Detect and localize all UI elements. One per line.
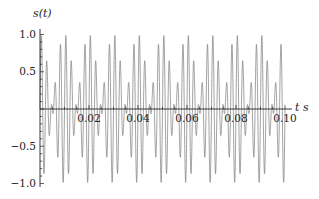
x-tick-label: 0.04 — [126, 112, 150, 124]
y-tick-label: −0.5 — [11, 140, 37, 152]
y-tick-label: −1.0 — [11, 177, 37, 189]
signal-plot: 0.020.040.060.080.101.00.5−0.5−1.0 s(t) … — [0, 0, 319, 199]
x-axis-label: t s — [295, 101, 309, 114]
y-tick-label: 1.0 — [19, 28, 36, 40]
y-axis-label: s(t) — [33, 7, 52, 20]
x-tick-label: 0.06 — [175, 112, 199, 124]
x-tick-label: 0.10 — [273, 112, 296, 124]
x-tick-label: 0.02 — [77, 112, 100, 124]
tick-marks — [40, 35, 285, 184]
y-tick-label: 0.5 — [19, 65, 36, 77]
x-tick-label: 0.08 — [224, 112, 247, 124]
